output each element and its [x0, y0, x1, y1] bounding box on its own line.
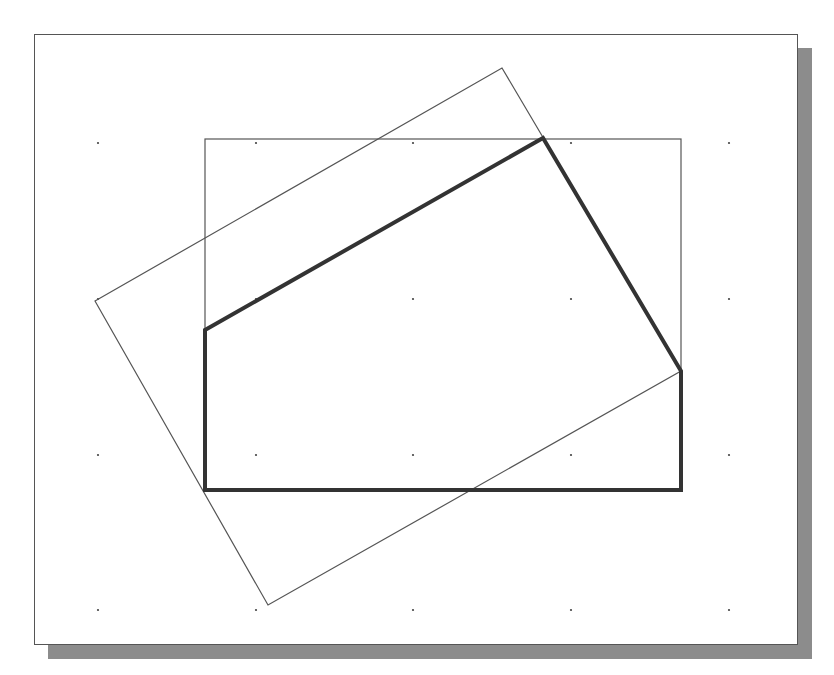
grid-dot	[570, 454, 572, 456]
grid-dot	[570, 609, 572, 611]
grid-dot	[728, 609, 730, 611]
grid-dot	[255, 609, 257, 611]
grid-dot	[412, 298, 414, 300]
grid-dot	[728, 454, 730, 456]
grid-dot	[412, 454, 414, 456]
grid-dot	[412, 609, 414, 611]
grid-dot	[412, 142, 414, 144]
grid-dot	[570, 298, 572, 300]
grid-dot	[255, 454, 257, 456]
grid-dot	[570, 142, 572, 144]
grid-dot	[97, 454, 99, 456]
sketch-profile	[205, 138, 681, 490]
figure-stage	[0, 0, 834, 675]
grid-dot	[255, 142, 257, 144]
grid-dot	[97, 609, 99, 611]
grid-dot	[97, 142, 99, 144]
grid-dot	[728, 142, 730, 144]
rotated-rectangle	[95, 68, 681, 605]
grid-dot	[728, 298, 730, 300]
reference-rectangle	[205, 139, 681, 490]
sketch-drawing	[0, 0, 834, 675]
